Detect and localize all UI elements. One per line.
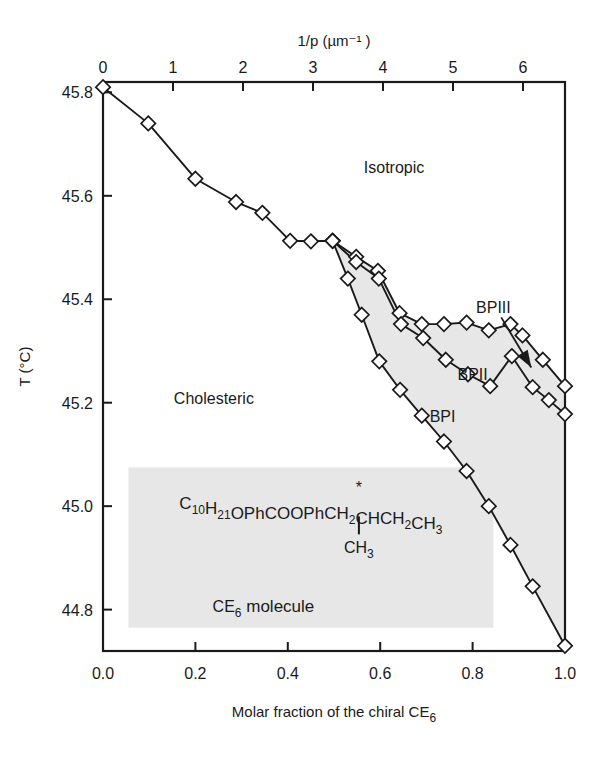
data-point-marker: [304, 234, 318, 248]
x2-tick-label: 6: [519, 59, 528, 76]
region-label-bp1: BPI: [430, 408, 456, 425]
chiral-center-star: *: [356, 479, 362, 496]
x-tick-label: 0.0: [92, 665, 114, 682]
x2-tick-label: 5: [449, 59, 458, 76]
y-tick-label: 45.4: [62, 291, 93, 308]
region-label-isotropic: Isotropic: [364, 159, 424, 176]
x2-tick-label: 1: [169, 59, 178, 76]
region-label-cholesteric: Cholesteric: [174, 390, 254, 407]
bottom-axis-title: Molar fraction of the chiral CE6: [232, 703, 437, 725]
x2-tick-label: 4: [379, 59, 388, 76]
data-point-marker: [229, 195, 243, 209]
y-tick-label: 45.6: [62, 188, 93, 205]
y-tick-label: 44.8: [62, 602, 93, 619]
y-axis-title: T (°C): [16, 347, 33, 387]
y-tick-label: 45.8: [62, 84, 93, 101]
x-tick-label: 0.2: [184, 665, 206, 682]
region-label-bp2: BPII: [457, 366, 487, 383]
phase-diagram-figure: 0.00.20.40.60.81.0012345645.845.645.445.…: [0, 0, 606, 758]
x2-tick-label: 3: [309, 59, 318, 76]
x-tick-label: 0.4: [277, 665, 299, 682]
phase-diagram-svg: 0.00.20.40.60.81.0012345645.845.645.445.…: [0, 0, 606, 758]
x2-tick-label: 2: [239, 59, 248, 76]
region-label-bp3: BPIII: [476, 299, 511, 316]
y-tick-label: 45.2: [62, 395, 93, 412]
top-axis-title: 1/p (µm⁻¹ ): [297, 32, 370, 49]
x-tick-label: 0.8: [461, 665, 483, 682]
y-tick-label: 45.0: [62, 498, 93, 515]
x-tick-label: 0.6: [369, 665, 391, 682]
x-tick-label: 1.0: [554, 665, 576, 682]
x2-tick-label: 0: [99, 59, 108, 76]
